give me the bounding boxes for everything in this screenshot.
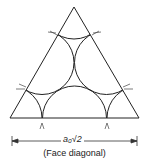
dimension-label: a₀√2 xyxy=(61,134,84,144)
face-diagonal-diagram: a₀√2 (Face diagonal) xyxy=(0,0,149,167)
continuation-ticks xyxy=(16,31,133,129)
corner-atom-top xyxy=(42,0,106,39)
caption: (Face diagonal) xyxy=(0,148,149,158)
